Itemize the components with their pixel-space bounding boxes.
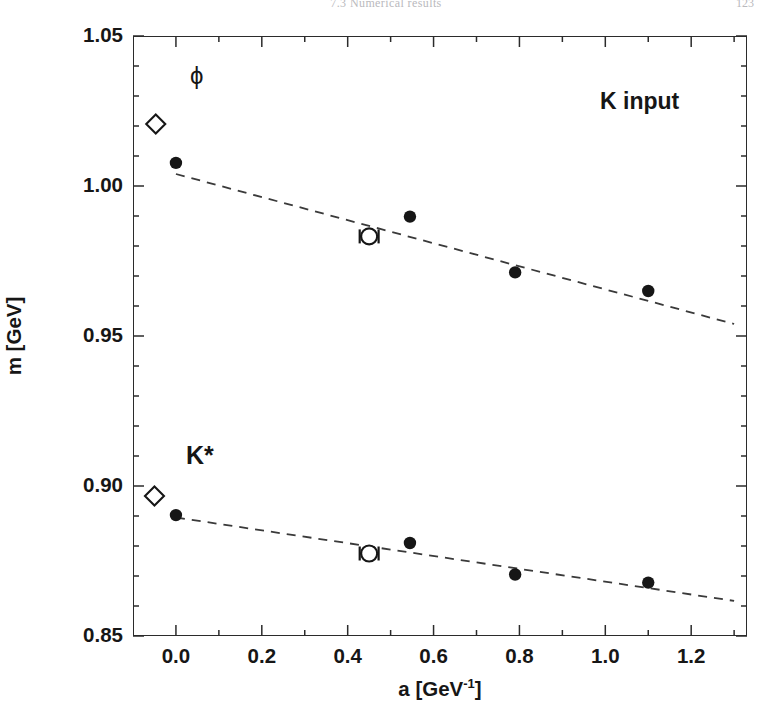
series-phi: [146, 0, 655, 297]
y-axis-title: m [GeV]: [2, 297, 26, 376]
axis-ticks-layer: [133, 36, 747, 636]
series-label-phi: ϕ: [190, 62, 203, 90]
filled-circle-kstar-2: [509, 568, 521, 580]
series-kstar: [145, 0, 655, 589]
filled-circle-phi-3: [642, 285, 654, 297]
figure-panel: 0.850.900.951.001.05 0.00.20.40.60.81.01…: [0, 0, 772, 715]
fit-line-phi: [176, 174, 734, 324]
filled-circle-kstar-1: [404, 537, 416, 549]
experiment-diamond-kstar: [145, 486, 164, 505]
x-axis-title: a [GeV-1]: [398, 676, 481, 701]
open-circle-phi-0: [361, 228, 377, 244]
experiment-diamond-phi: [146, 114, 165, 133]
filled-circle-phi-1: [404, 210, 416, 222]
input-scheme-label: K input: [600, 88, 679, 115]
series-label-kstar: K*: [186, 441, 214, 470]
filled-circle-kstar-3: [642, 576, 654, 588]
plot-canvas: [133, 36, 747, 636]
data-markers-layer: [145, 0, 655, 589]
filled-circle-phi-2: [509, 266, 521, 278]
fit-lines-layer: [176, 174, 734, 601]
filled-circle-phi-0: [170, 157, 182, 169]
open-circle-kstar-0: [361, 546, 377, 562]
filled-circle-kstar-0: [170, 509, 182, 521]
